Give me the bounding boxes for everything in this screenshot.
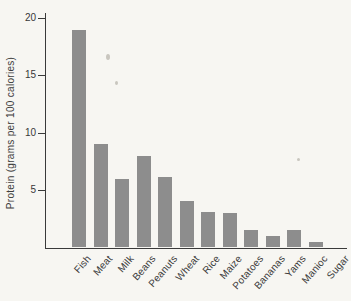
bar-potatoes bbox=[244, 230, 258, 247]
bar-peanuts bbox=[158, 177, 172, 248]
bar-beans bbox=[137, 156, 151, 248]
scan-speck bbox=[297, 158, 300, 161]
protein-bar-chart: Protein (grams per 100 calories) 5101520… bbox=[0, 0, 351, 301]
bar-wheat bbox=[180, 201, 194, 248]
x-tick-label-fish: Fish bbox=[72, 253, 93, 275]
y-tick-mark bbox=[38, 133, 45, 134]
bar-manioc bbox=[309, 242, 323, 248]
bar-yams bbox=[287, 230, 301, 247]
x-tick-label-meat: Meat bbox=[91, 253, 114, 278]
x-tick-label-sugar: Sugar bbox=[325, 253, 351, 281]
bar-bananas bbox=[266, 236, 280, 247]
y-tick-label: 5 bbox=[30, 184, 36, 195]
y-tick-label: 15 bbox=[25, 69, 36, 80]
y-tick-label: 20 bbox=[25, 12, 36, 23]
y-tick-label: 10 bbox=[25, 127, 36, 138]
y-axis-title: Protein (grams per 100 calories) bbox=[5, 57, 16, 209]
bar-rice bbox=[201, 212, 215, 247]
bar-milk bbox=[115, 179, 129, 248]
y-tick-mark bbox=[38, 190, 45, 191]
scan-speck bbox=[115, 81, 118, 85]
x-axis-line bbox=[45, 248, 347, 249]
bar-maize bbox=[223, 213, 237, 247]
y-tick-mark bbox=[38, 18, 45, 19]
scan-speck bbox=[106, 54, 110, 60]
bar-meat bbox=[94, 144, 108, 247]
y-axis-line bbox=[45, 13, 46, 248]
y-tick-mark bbox=[38, 75, 45, 76]
bar-fish bbox=[72, 30, 86, 248]
